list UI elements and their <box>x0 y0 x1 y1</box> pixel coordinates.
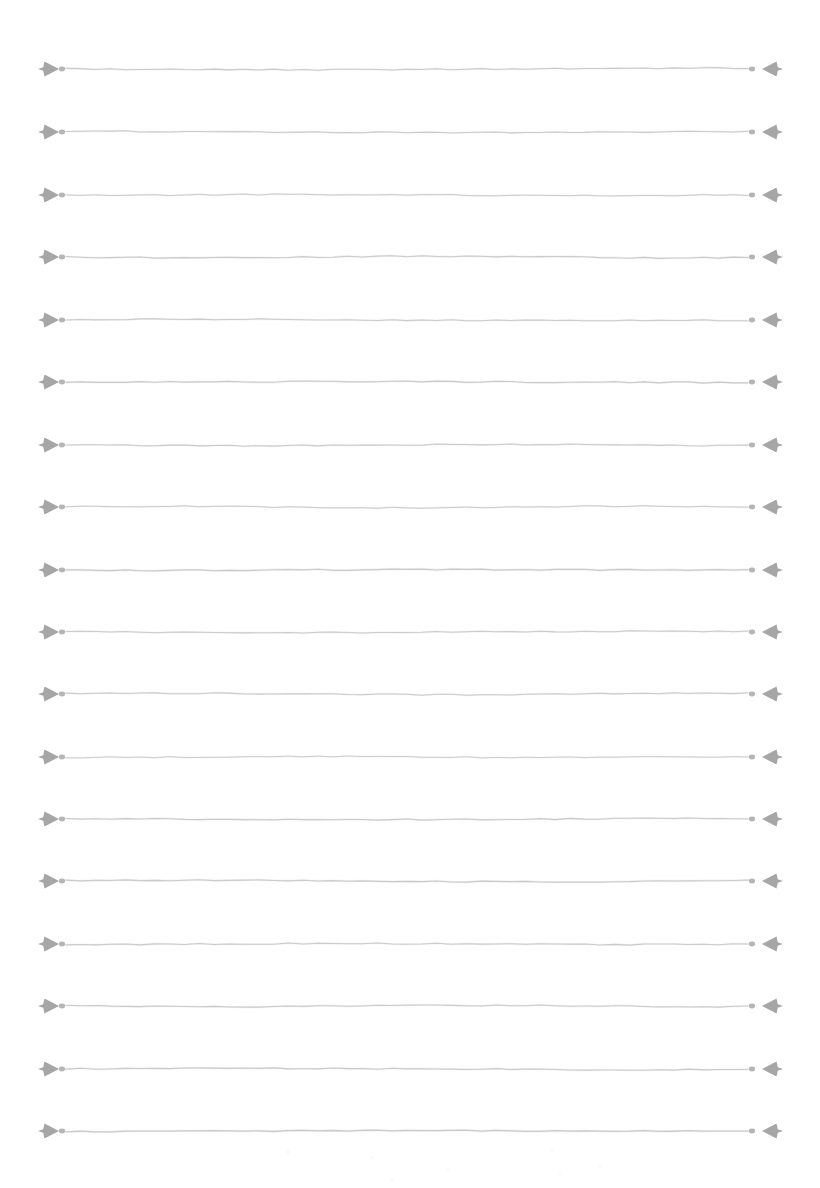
ruled-line <box>0 369 820 395</box>
ruled-line <box>0 993 820 1019</box>
ruled-line <box>0 806 820 832</box>
ruled-line <box>0 244 820 270</box>
ruled-line <box>0 1056 820 1082</box>
ruled-line <box>0 56 820 82</box>
lined-page <box>0 0 820 1188</box>
ruled-line <box>0 868 820 894</box>
ruled-line <box>0 681 820 707</box>
paper-grain <box>0 1140 820 1188</box>
ruled-line <box>0 182 820 208</box>
ruled-line <box>0 557 820 583</box>
ruled-line <box>0 931 820 957</box>
ruled-line <box>0 1118 820 1144</box>
ruled-line <box>0 119 820 145</box>
ruled-line <box>0 494 820 520</box>
ruled-line <box>0 432 820 458</box>
ruled-line <box>0 619 820 645</box>
ruled-line <box>0 307 820 333</box>
ruled-line <box>0 744 820 770</box>
